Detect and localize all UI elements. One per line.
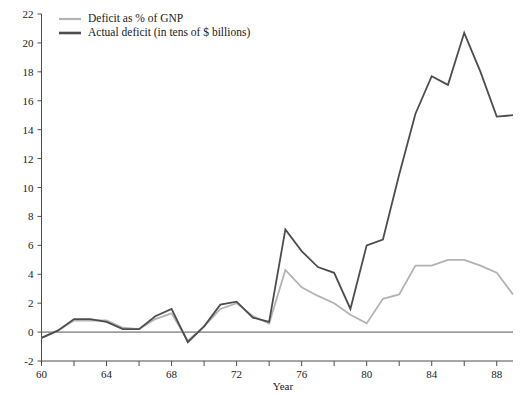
y-tick-label: 0 [28, 326, 34, 338]
x-axis: 6064687276808488 [36, 361, 513, 380]
chart-canvas: -20246810121416182022 6064687276808488 D… [0, 0, 528, 395]
chart-legend: Deficit as % of GNPActual deficit (in te… [59, 12, 250, 39]
x-tick-label: 80 [361, 368, 373, 380]
x-tick-label: 88 [491, 368, 503, 380]
x-tick-label: 60 [36, 368, 48, 380]
deficit-line-chart: -20246810121416182022 6064687276808488 D… [0, 0, 528, 395]
legend-label-deficit-pct-gnp: Deficit as % of GNP [88, 12, 183, 24]
x-tick-label: 84 [426, 368, 438, 380]
y-tick-label: 6 [28, 239, 34, 251]
x-axis-title: Year [273, 380, 294, 392]
x-tick-label: 72 [231, 368, 242, 380]
y-tick-label: 20 [23, 37, 35, 49]
series-lines [42, 33, 514, 342]
y-tick-label: 8 [28, 210, 34, 222]
y-tick-label: 16 [23, 95, 35, 107]
legend-label-actual-deficit: Actual deficit (in tens of $ billions) [88, 26, 250, 39]
x-tick-label: 64 [101, 368, 113, 380]
y-tick-label: -2 [24, 355, 33, 367]
y-tick-label: 2 [28, 297, 34, 309]
y-tick-label: 12 [23, 153, 34, 165]
y-tick-label: 4 [28, 268, 34, 280]
y-tick-label: 10 [23, 182, 35, 194]
y-tick-label: 18 [23, 66, 35, 78]
x-tick-label: 68 [166, 368, 178, 380]
y-tick-label: 14 [23, 124, 35, 136]
y-tick-label: 22 [23, 8, 34, 20]
x-tick-label: 76 [296, 368, 308, 380]
y-axis: -20246810121416182022 [23, 8, 42, 367]
